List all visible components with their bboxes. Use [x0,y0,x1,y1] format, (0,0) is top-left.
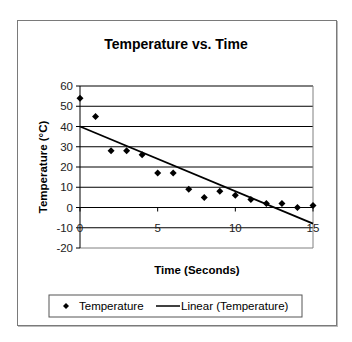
data-point [201,194,208,201]
scatter-chart: Temperature vs. Time -20-100102030405060… [0,0,352,342]
x-tick-label: 10 [229,222,242,234]
legend-series-label: Temperature [79,300,144,312]
data-point [294,204,301,211]
y-tick-label: 50 [60,100,73,112]
y-tick-label: -10 [56,222,73,234]
data-point [278,200,285,207]
y-axis-title: Temperature (°C) [37,121,49,214]
data-point [216,188,223,195]
y-tick-label: 0 [67,202,73,214]
y-tick-label: 30 [60,141,73,153]
y-tick-label: -20 [56,242,73,254]
chart-title: Temperature vs. Time [104,36,248,52]
data-point [77,95,84,102]
legend-trend-label: Linear (Temperature) [181,300,289,312]
data-point [170,170,177,177]
y-tick-label: 10 [60,181,73,193]
data-point [139,151,146,158]
y-tick-label: 60 [60,80,73,92]
trendline [80,127,313,224]
x-tick-label: 5 [154,222,160,234]
x-tick-label: 0 [77,222,83,234]
x-axis-title: Time (Seconds) [154,264,240,276]
data-point [108,147,115,154]
data-point [123,147,130,154]
legend: Temperature Linear (Temperature) [49,295,302,317]
data-point [92,113,99,120]
plot-area: -20-100102030405060051015 [56,80,319,254]
data-point [154,170,161,177]
y-tick-label: 40 [60,121,73,133]
y-tick-label: 20 [60,161,73,173]
